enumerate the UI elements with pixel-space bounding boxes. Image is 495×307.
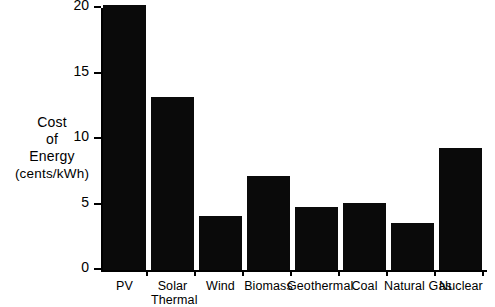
x-tick-7 bbox=[434, 270, 436, 276]
y-tick-0: 0 bbox=[94, 268, 101, 270]
x-label-nuclear-line-1: Nuclear bbox=[437, 280, 485, 294]
y-tick-5: 5 bbox=[94, 203, 101, 205]
x-tick-3 bbox=[242, 270, 244, 276]
y-tick-label-0: 0 bbox=[81, 259, 89, 275]
bar-coal bbox=[343, 203, 386, 270]
x-tick-2 bbox=[194, 270, 196, 276]
y-tick-label-15: 15 bbox=[73, 63, 89, 79]
x-tick-8 bbox=[482, 270, 484, 276]
x-label-coal-line-1: Coal bbox=[343, 280, 386, 294]
y-tick-label-20: 20 bbox=[73, 0, 89, 13]
x-label-geothermal-line-1: Geothermal bbox=[287, 280, 346, 294]
x-label-pv-line-1: PV bbox=[103, 280, 146, 294]
x-label-wind: Wind bbox=[199, 280, 242, 294]
bar-wind bbox=[199, 216, 242, 270]
x-axis-line bbox=[101, 270, 487, 272]
x-label-pv: PV bbox=[103, 280, 146, 294]
x-tick-6 bbox=[386, 270, 388, 276]
y-axis-title-line-3: Energy bbox=[2, 148, 102, 165]
bar-geothermal bbox=[295, 207, 338, 270]
bar-natural-gas bbox=[391, 223, 434, 270]
x-tick-4 bbox=[290, 270, 292, 276]
x-label-nuclear: Nuclear bbox=[437, 280, 485, 294]
bar-biomass bbox=[247, 176, 290, 270]
bar-nuclear bbox=[439, 148, 482, 270]
y-tick-20: 20 bbox=[94, 6, 101, 8]
x-label-solar-thermal-line-2: Thermal bbox=[151, 294, 194, 307]
y-tick-label-5: 5 bbox=[81, 194, 89, 210]
x-label-coal: Coal bbox=[343, 280, 386, 294]
x-label-natural-gas-line-1: Natural Gas bbox=[384, 280, 441, 294]
y-tick-10: 10 bbox=[94, 137, 101, 139]
y-axis-title: Cost of Energy (cents/kWh) bbox=[2, 114, 102, 182]
bar-solar-thermal bbox=[151, 97, 194, 270]
x-tick-5 bbox=[338, 270, 340, 276]
plot-area: 0 5 10 15 20 PV bbox=[101, 8, 487, 270]
y-tick-label-10: 10 bbox=[73, 128, 89, 144]
x-label-solar-thermal: Solar Thermal bbox=[151, 280, 194, 307]
x-tick-1 bbox=[146, 270, 148, 276]
y-axis-title-line-4: (cents/kWh) bbox=[2, 165, 102, 182]
y-tick-15: 15 bbox=[94, 72, 101, 74]
bar-pv bbox=[103, 5, 146, 270]
x-label-wind-line-1: Wind bbox=[199, 280, 242, 294]
x-label-natural-gas: Natural Gas bbox=[384, 280, 441, 294]
x-label-solar-thermal-line-1: Solar bbox=[151, 280, 194, 294]
x-label-geothermal: Geothermal bbox=[287, 280, 346, 294]
